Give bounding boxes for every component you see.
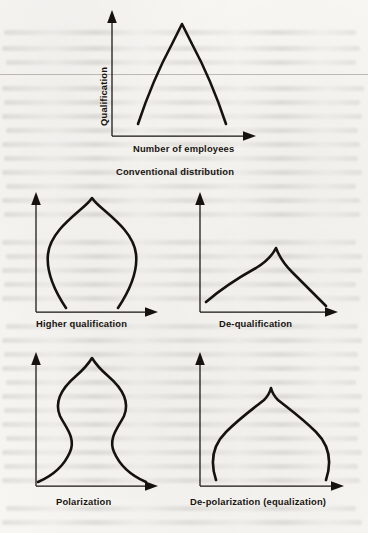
axes-de-polarization — [195, 352, 344, 491]
distribution-curve — [38, 358, 146, 482]
y-axis-arrowhead — [31, 352, 41, 365]
panel-caption-higher-qualification: Higher qualification — [36, 318, 127, 329]
x-axis-label: Number of employees — [133, 143, 234, 154]
y-axis-arrowhead — [107, 10, 117, 23]
distribution-curve — [48, 198, 137, 308]
axes-conventional — [107, 10, 256, 141]
panel-caption-polarization: Polarization — [56, 496, 111, 507]
y-axis-label: Qualification — [98, 67, 109, 126]
x-axis-arrowhead — [145, 307, 158, 317]
distribution-curve — [206, 248, 326, 306]
chart-de-qualification — [186, 190, 346, 318]
chart-polarization — [22, 350, 172, 492]
x-axis-arrowhead — [243, 131, 256, 141]
axes-higher-qualification — [31, 192, 158, 317]
y-axis-arrowhead — [195, 192, 205, 205]
panel-caption-de-polarization: De-polarization (equalization) — [190, 496, 326, 507]
chart-higher-qualification — [22, 190, 172, 318]
distribution-curve — [138, 24, 226, 124]
panel-caption-conventional: Conventional distribution — [116, 166, 234, 177]
y-axis-arrowhead — [31, 192, 41, 205]
chart-de-polarization — [186, 350, 352, 492]
distribution-curve — [213, 388, 329, 480]
x-axis-arrowhead — [325, 307, 338, 317]
y-axis-arrowhead — [195, 352, 205, 365]
axes-polarization — [31, 352, 158, 491]
x-axis-arrowhead — [331, 481, 344, 491]
panel-caption-de-qualification: De-qualification — [219, 318, 292, 329]
chart-conventional — [96, 8, 266, 143]
